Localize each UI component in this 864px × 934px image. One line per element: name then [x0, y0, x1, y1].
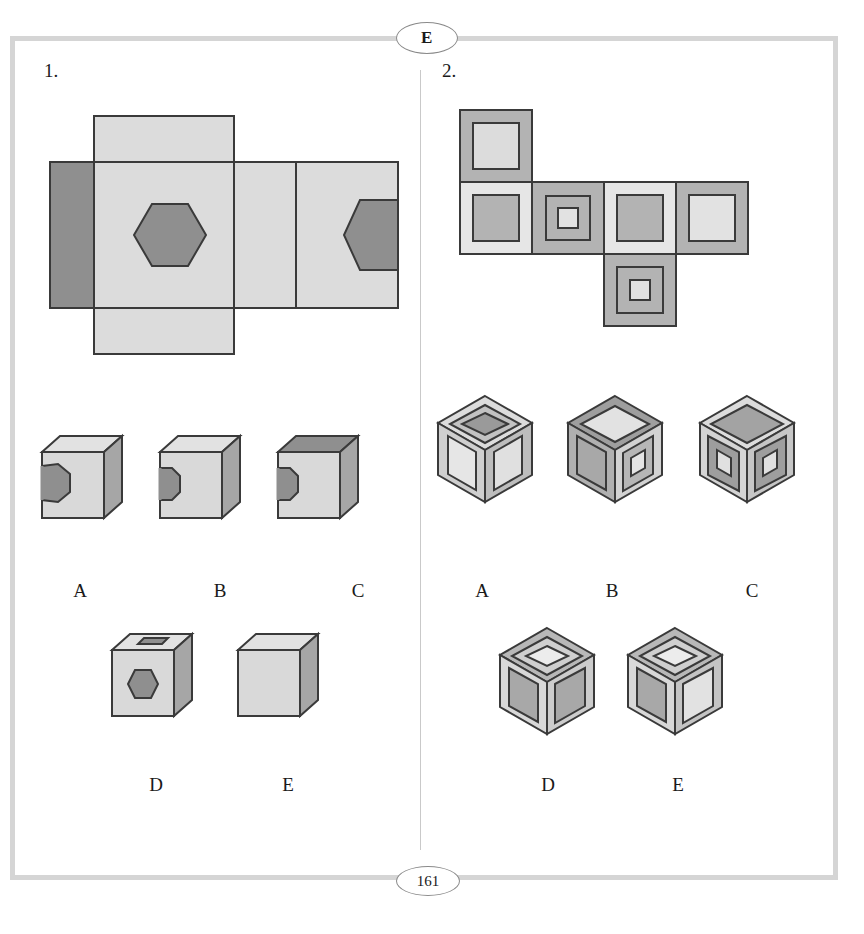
section-badge: E	[396, 22, 458, 54]
net-cell-mid-4	[676, 182, 748, 254]
problem-2-option-a[interactable]	[432, 386, 538, 512]
page-number-badge: 161	[396, 866, 460, 896]
problem-1-number: 1.	[44, 60, 58, 82]
problem-1-option-d[interactable]	[106, 628, 198, 724]
net-cell-mid-3	[604, 182, 676, 254]
problem-1-label-c: C	[338, 580, 378, 602]
net-cell-mid-2	[532, 182, 604, 254]
problem-1-option-a[interactable]	[36, 430, 128, 526]
problem-2-label-c: C	[732, 580, 772, 602]
net-cell-mid-1	[460, 182, 532, 254]
problem-1-label-e: E	[268, 774, 308, 796]
problem-2-option-d[interactable]	[494, 618, 600, 744]
problem-2-net	[456, 106, 776, 366]
problem-2-option-c[interactable]	[694, 386, 800, 512]
problem-2-option-b[interactable]	[562, 386, 668, 512]
column-divider	[420, 70, 421, 850]
page-number-label: 161	[417, 873, 440, 890]
problem-2-label-e: E	[658, 774, 698, 796]
problem-1-net	[34, 104, 406, 364]
problem-1-label-a: A	[60, 580, 100, 602]
problem-2-option-e[interactable]	[622, 618, 728, 744]
problem-2-label-a: A	[462, 580, 502, 602]
net-cell-bottom	[604, 254, 676, 326]
problem-1-option-b[interactable]	[154, 430, 246, 526]
net-cell-top	[460, 110, 532, 182]
problem-1-option-e[interactable]	[232, 628, 324, 724]
problem-2-number: 2.	[442, 60, 456, 82]
section-badge-label: E	[421, 28, 433, 48]
problem-2-label-b: B	[592, 580, 632, 602]
problem-2-label-d: D	[528, 774, 568, 796]
problem-1-label-d: D	[136, 774, 176, 796]
problem-2: 2.	[432, 44, 836, 872]
problem-1-option-c[interactable]	[272, 430, 364, 526]
problem-1: 1. A B	[16, 44, 420, 872]
problem-1-label-b: B	[200, 580, 240, 602]
